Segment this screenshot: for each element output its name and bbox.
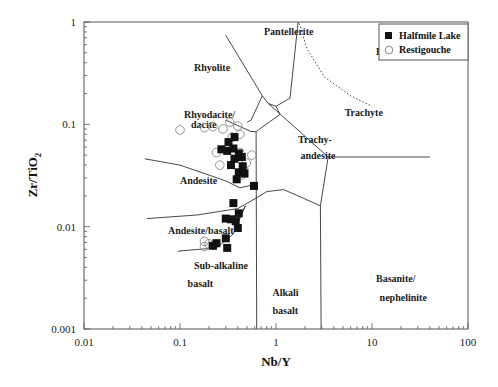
restigouche-data-point [234, 122, 243, 131]
x-tick-label: 10 [367, 336, 379, 348]
x-axis-title: Nb/Y [261, 354, 291, 369]
field-boundary-line [320, 206, 321, 329]
restigouche-data-point [219, 125, 228, 134]
field-label: Andesite [180, 175, 218, 186]
halfmile-lake-data-point [209, 242, 217, 250]
x-tick-label: 0.1 [173, 336, 187, 348]
y-axis-title: Zr/TiO2 [25, 152, 43, 197]
restigouche-data-point [248, 151, 257, 160]
field-label: basalt [188, 278, 214, 289]
halfmile-lake-data-point [241, 170, 249, 178]
field-label: andesite [301, 150, 337, 161]
field-label: Sub-alkaline [194, 260, 248, 271]
x-tick-label: 1 [273, 336, 279, 348]
field-label: Alkali [273, 287, 299, 298]
field-label: Trachyte [345, 107, 384, 118]
field-label: Basanite/ [376, 273, 416, 284]
field-label: Andesite/basalt [168, 225, 234, 236]
field-boundary-line [247, 96, 262, 122]
field-label: basalt [273, 305, 299, 316]
legend: Halfmile Lake Restigouche [379, 24, 468, 60]
y-tick-label: 1 [71, 16, 77, 28]
x-tick-label: 0.01 [74, 336, 93, 348]
restigouche-data-point [176, 126, 185, 135]
halfmile-lake-data-point [229, 199, 237, 207]
field-label: Trachy- [298, 134, 332, 145]
field-label: Rhyolite [194, 62, 231, 73]
x-tick-label: 100 [460, 336, 477, 348]
halfmile-lake-data-point [233, 175, 241, 183]
halfmile-lake-data-point [222, 234, 230, 242]
field-label: dacite [191, 119, 217, 130]
filled-square-icon [385, 32, 392, 39]
y-tick-label: 0.001 [51, 323, 76, 335]
halfmile-lake-data-point [223, 244, 231, 252]
halfmile-lake-data-point [235, 209, 243, 217]
y-axis-title-subscript: 2 [33, 152, 43, 157]
y-tick-label: 0.1 [62, 118, 76, 130]
halfmile-lake-data-point [238, 153, 246, 161]
y-axis-title-main: Zr/TiO [25, 157, 40, 197]
field-label: Pantellerite [264, 26, 314, 37]
restigouche-data-point [216, 161, 225, 170]
halfmile-lake-data-point [227, 161, 235, 169]
field-boundary-line [256, 132, 257, 329]
x-axis-ticks: 0.010.1110100 [74, 323, 476, 348]
field-labels: RhyolitePantelleritePhonoliteRhyodacite/… [168, 26, 427, 316]
legend-label-halfmile-lake: Halfmile Lake [399, 30, 461, 41]
y-tick-label: 0.01 [57, 221, 76, 233]
zr-tio2-vs-nb-y-classification-chart: RhyolitePantelleritePhonoliteRhyodacite/… [0, 0, 498, 387]
halfmile-lake-data-point [250, 182, 258, 190]
field-label: nephelinite [380, 292, 428, 303]
legend-label-restigouche: Restigouche [399, 44, 451, 55]
halfmile-lake-data-point [234, 224, 242, 232]
